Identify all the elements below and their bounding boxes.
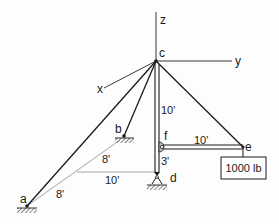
cable-c-b xyxy=(124,61,156,136)
point-label-e: e xyxy=(245,140,252,154)
dim-fe: 10' xyxy=(194,134,208,146)
point-label-b: b xyxy=(115,122,122,136)
x-axis xyxy=(104,61,156,88)
cables xyxy=(27,61,243,206)
dim-cf: 10' xyxy=(161,104,175,116)
joint-c xyxy=(154,59,158,63)
dim-ground-d: 10' xyxy=(105,174,119,186)
load: 1000 lb xyxy=(221,147,266,179)
point-label-a: a xyxy=(20,192,27,206)
diagram-canvas: 1000 lb z y x c b a f xyxy=(0,0,279,224)
point-label-c: c xyxy=(159,46,165,60)
structure-diagram: 1000 lb z y x c b a f xyxy=(0,0,279,224)
support-d-pin xyxy=(147,172,167,190)
axes xyxy=(104,12,232,88)
axis-label-z: z xyxy=(160,13,166,27)
load-label: 1000 lb xyxy=(225,162,261,174)
dim-ground-a: 8' xyxy=(56,188,64,200)
point-label-d: d xyxy=(170,171,177,185)
dim-ground-b: 8' xyxy=(102,153,110,165)
axis-label-y: y xyxy=(235,54,241,68)
axis-label-x: x xyxy=(97,82,103,96)
point-label-f: f xyxy=(164,129,168,143)
ground-geometry xyxy=(27,140,157,206)
mast xyxy=(155,61,159,172)
ground-line-a-to-b xyxy=(27,140,120,206)
dim-fd: 3' xyxy=(161,155,169,167)
cable-c-a xyxy=(27,61,156,206)
